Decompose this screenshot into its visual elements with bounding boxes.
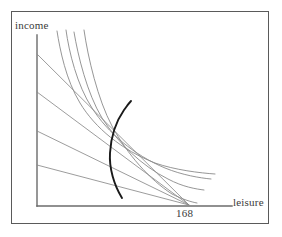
y-axis-label: income (15, 19, 49, 31)
x-axis-tick-label-168: 168 (176, 207, 193, 219)
axes-group (37, 35, 232, 206)
budget-line-2 (37, 92, 189, 205)
budget-line-1 (37, 54, 189, 205)
budget-line-3 (37, 131, 189, 205)
indifference-curves-group (57, 30, 215, 203)
x-axis-label: leisure (233, 196, 264, 208)
budget-line-4 (37, 165, 189, 205)
budget-lines-group (37, 54, 189, 205)
figure-container: income leisure 168 (0, 0, 282, 237)
